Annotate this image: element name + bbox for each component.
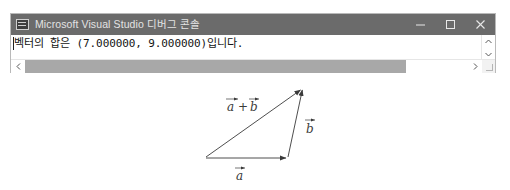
console-output-line: 벡터의 합은 (7.000000, 9.000000)입니다.: [14, 36, 481, 51]
vector-a-label-text: a: [236, 169, 243, 183]
vector-sum-label: a + b: [226, 99, 259, 114]
console-client-area: 벡터의 합은 (7.000000, 9.000000)입니다.: [11, 35, 495, 73]
scroll-right-icon[interactable]: [468, 60, 482, 73]
horizontal-scroll-track[interactable]: [25, 60, 468, 73]
minimize-button[interactable]: [405, 14, 435, 35]
vector-a-label: a: [235, 168, 245, 183]
console-icon: [16, 19, 29, 30]
vector-sum-operator-text: +: [238, 100, 248, 114]
vector-b: [288, 90, 302, 157]
vector-sum-second-text: b: [250, 100, 258, 114]
vector-b-label-text: b: [306, 122, 314, 136]
vector-addition-diagram: a b a + b: [150, 78, 370, 188]
horizontal-scrollbar[interactable]: [11, 59, 495, 73]
vector-b-label: b: [305, 120, 315, 136]
horizontal-scroll-thumb[interactable]: [25, 60, 406, 73]
scroll-left-icon[interactable]: [11, 60, 25, 73]
window-title: Microsoft Visual Studio 디버그 콘솔: [35, 14, 405, 35]
close-button[interactable]: [465, 14, 495, 35]
title-bar[interactable]: Microsoft Visual Studio 디버그 콘솔: [11, 14, 495, 35]
maximize-button[interactable]: [435, 14, 465, 35]
text-caret: [13, 37, 14, 50]
scroll-up-icon[interactable]: [482, 35, 495, 48]
resize-grip[interactable]: [482, 60, 495, 73]
console-window: Microsoft Visual Studio 디버그 콘솔 벡터의 합은 (7…: [10, 13, 496, 73]
vector-sum-first-text: a: [227, 100, 234, 114]
